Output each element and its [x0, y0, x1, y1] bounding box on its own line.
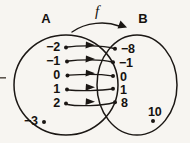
diagram-canvas: A B f −2 −8 −1 −1 0 0 1 1 2 — [0, 0, 190, 143]
codomain-dot-3 — [111, 87, 115, 91]
function-arrow-curve — [72, 23, 119, 32]
function-arrow-head — [118, 21, 128, 29]
codomain-dot-0 — [113, 47, 117, 51]
codomain-unmapped-element-0: 10 — [148, 105, 162, 119]
set-b-label: B — [138, 11, 147, 26]
codomain-element-1: −1 — [119, 56, 133, 70]
domain-unmapped-dot-0 — [42, 120, 46, 124]
mapping-arrow-head-4 — [86, 98, 96, 105]
codomain-dot-1 — [111, 60, 115, 64]
mapping-arrow-3 — [69, 89, 113, 91]
domain-unmapped-element-0: −3 — [24, 114, 38, 128]
domain-element-1: −1 — [46, 54, 60, 68]
domain-element-0: −2 — [46, 40, 60, 54]
function-label-f: f — [95, 3, 101, 19]
codomain-element-4: 8 — [121, 96, 128, 110]
mapping-arrow-head-2 — [86, 70, 96, 77]
mapping-arrow-head-1 — [86, 56, 96, 63]
domain-element-4: 2 — [53, 96, 60, 110]
codomain-dot-4 — [113, 100, 117, 104]
domain-element-3: 1 — [53, 82, 60, 96]
codomain-unmapped-dot-0 — [151, 119, 155, 123]
codomain-element-2: 0 — [120, 70, 127, 84]
set-a-label: A — [41, 11, 51, 26]
codomain-element-3: 1 — [120, 83, 127, 97]
function-mapping-figure: A B f −2 −8 −1 −1 0 0 1 1 2 — [0, 0, 190, 143]
mapping-arrow-head-3 — [86, 84, 96, 91]
codomain-dot-2 — [111, 74, 115, 78]
scan-artifact-speck — [0, 77, 6, 79]
set-b-ellipse — [97, 35, 177, 135]
domain-element-2: 0 — [53, 68, 60, 82]
codomain-element-0: −8 — [121, 42, 135, 56]
